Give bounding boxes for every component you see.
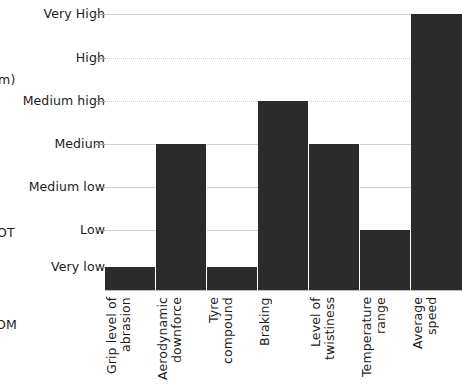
y-axis-tick-label: Medium low [9, 181, 105, 194]
y-axis-tick-label: High [9, 52, 105, 65]
y-axis-tick-label: Very High [9, 8, 105, 21]
chart-screenshot: m) OT OM Very HighHighMedium highMediumM… [0, 0, 462, 387]
bar [207, 267, 258, 290]
bar [156, 144, 207, 290]
x-axis-category-label: Level of twistiness [309, 297, 360, 385]
x-axis-category-label: Average speed [411, 297, 462, 385]
y-axis-tick-mark [96, 144, 105, 145]
y-axis: Very HighHighMedium highMediumMedium low… [0, 0, 105, 291]
y-axis-tick-label: Very low [9, 261, 105, 274]
y-axis-tick-mark [96, 230, 105, 231]
x-axis-category-label: Aerodynamic downforce [156, 297, 207, 385]
gridline [105, 14, 462, 15]
y-axis-tick-mark [96, 101, 105, 102]
clipped-text-om: OM [0, 319, 17, 332]
x-axis-category-label: Grip level of abrasion [105, 297, 156, 385]
x-axis-category-label: Tyre compound [207, 297, 258, 385]
plot-area [105, 0, 462, 291]
y-axis-tick-label: Low [9, 224, 105, 237]
y-axis-tick-mark [96, 14, 105, 15]
bar [258, 101, 309, 290]
x-axis-category-label: Braking [258, 297, 309, 385]
y-axis-tick-mark [96, 58, 105, 59]
bar [105, 267, 156, 290]
bar [309, 144, 360, 290]
y-axis-tick-label: Medium [9, 138, 105, 151]
x-axis-category-label: Temperature range [360, 297, 411, 385]
bar [360, 230, 411, 290]
bar [411, 14, 462, 290]
gridline [105, 58, 462, 59]
y-axis-tick-mark [96, 267, 105, 268]
x-axis-labels: Grip level of abrasionAerodynamic downfo… [105, 291, 462, 387]
y-axis-tick-label: Medium high [9, 95, 105, 108]
y-axis-tick-mark [96, 187, 105, 188]
